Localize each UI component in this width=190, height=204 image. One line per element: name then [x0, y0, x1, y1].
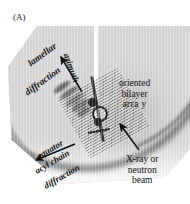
label-array-line2: bilayer [119, 89, 150, 100]
label-array-line1: oriented [119, 78, 150, 89]
figure-panel-a: (A) lamellar diffraction azimuth equator… [0, 0, 190, 204]
annotation-overlay: (A) lamellar diffraction azimuth equator… [0, 0, 190, 204]
label-beam-line3: beam [126, 175, 158, 186]
label-xray-neutron-beam: X-ray or neutron beam [126, 154, 158, 186]
beam-arrow-icon [120, 124, 139, 150]
label-oriented-bilayer-array: oriented bilayer arra y [119, 78, 150, 110]
panel-label: (A) [13, 12, 26, 22]
annotation-arrows [0, 0, 190, 204]
label-beam-line1: X-ray or [126, 154, 158, 165]
label-beam-line2: neutron [126, 165, 158, 176]
label-array-line3: arra y [119, 99, 150, 110]
